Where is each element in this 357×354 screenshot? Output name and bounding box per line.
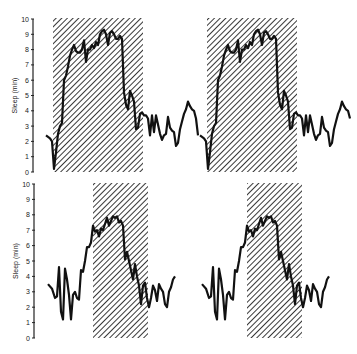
y-tick-label: 1 (25, 153, 29, 160)
y-axis-label: Sleep (min) (11, 78, 19, 114)
y-tick-label: 10 (21, 16, 29, 23)
y-tick-label: 2 (26, 304, 30, 311)
actogram-chart: 012345678910Sleep (min)012345678910Sleep… (0, 0, 357, 354)
y-tick-label: 5 (26, 258, 30, 265)
dark-period-shading (93, 183, 148, 338)
y-tick-label: 4 (25, 107, 29, 114)
dark-period-shading (247, 183, 302, 338)
y-tick-label: 7 (25, 61, 29, 68)
y-tick-label: 10 (22, 181, 30, 188)
y-tick-label: 4 (26, 273, 30, 280)
y-tick-label: 8 (25, 46, 29, 53)
y-tick-label: 3 (25, 123, 29, 130)
y-tick-label: 5 (25, 92, 29, 99)
y-tick-label: 0 (26, 335, 30, 342)
y-tick-label: 2 (25, 138, 29, 145)
y-tick-label: 7 (26, 227, 30, 234)
y-axis-label: Sleep (min) (12, 243, 20, 279)
y-tick-label: 9 (26, 196, 30, 203)
panel-1: 012345678910Sleep (min) (11, 16, 350, 176)
y-tick-label: 8 (26, 211, 30, 218)
y-tick-label: 1 (26, 319, 30, 326)
y-tick-label: 6 (25, 77, 29, 84)
y-tick-label: 3 (26, 288, 30, 295)
y-tick-label: 9 (25, 31, 29, 38)
y-tick-label: 0 (25, 169, 29, 176)
panel-2: 012345678910Sleep (min) (12, 181, 329, 342)
y-tick-label: 6 (26, 242, 30, 249)
